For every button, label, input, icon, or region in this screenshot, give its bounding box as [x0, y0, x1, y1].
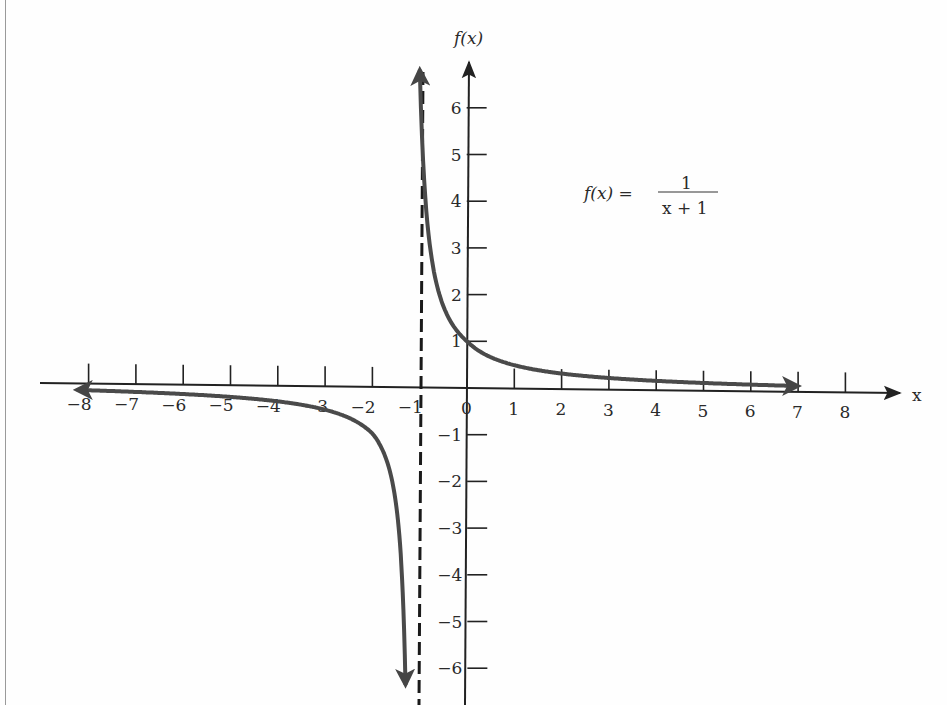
x-axis-label: x — [912, 385, 922, 405]
x-tick-label: 2 — [556, 399, 567, 419]
x-tick-label: 7 — [792, 402, 803, 422]
x-tick-label: 3 — [603, 400, 614, 420]
y-tick-label: −5 — [437, 612, 462, 632]
y-tick-label: 3 — [451, 238, 462, 258]
y-axis — [465, 62, 469, 705]
x-tick-label: 6 — [745, 401, 756, 421]
x-tick-label: −8 — [67, 394, 92, 414]
curve-left-branch — [77, 390, 406, 685]
x-tick-label: 0 — [461, 398, 472, 418]
x-tick-label: 5 — [698, 401, 709, 421]
curve-right-branch — [420, 70, 798, 386]
y-tick-label: 5 — [451, 145, 462, 165]
y-axis-label: f(x) — [452, 28, 483, 48]
x-tick-label: −2 — [350, 397, 375, 417]
y-tick-label: 4 — [451, 191, 462, 211]
y-tick-label: −1 — [437, 425, 462, 445]
svg-text:x + 1: x + 1 — [662, 198, 707, 218]
y-tick-label: −2 — [437, 471, 462, 491]
svg-text:f(x) =: f(x) = — [582, 183, 633, 203]
svg-text:1: 1 — [681, 173, 692, 193]
x-tick-label: −7 — [114, 394, 139, 414]
x-tick-label: 1 — [508, 399, 519, 419]
y-tick-label: −4 — [437, 565, 462, 585]
y-tick-label: 2 — [451, 285, 462, 305]
x-tick-label: −6 — [161, 395, 186, 415]
y-tick-label: 6 — [451, 98, 462, 118]
x-tick-label: 4 — [650, 400, 661, 420]
chart-page: −8−7−6−5−4−3−2−1012345678 654321−1−2−3−4… — [0, 0, 947, 705]
x-tick-label: 8 — [839, 402, 850, 422]
function-graph: −8−7−6−5−4−3−2−1012345678 654321−1−2−3−4… — [0, 0, 947, 705]
function-annotation: f(x) = 1 x + 1 — [582, 173, 718, 218]
y-tick-label: −6 — [437, 658, 462, 678]
y-tick-label: −3 — [437, 518, 462, 538]
x-tick-label: −1 — [398, 397, 423, 417]
